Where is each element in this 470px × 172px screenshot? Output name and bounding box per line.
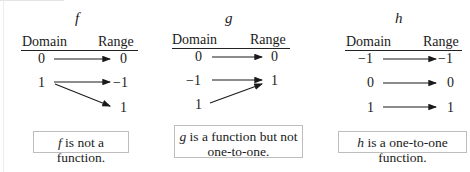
diagram-h: h Domain Range −1 0 1 −1 0 1 h is a one-… [0, 0, 470, 172]
conclusion-box: h is a one-to-one function. [338, 131, 467, 153]
